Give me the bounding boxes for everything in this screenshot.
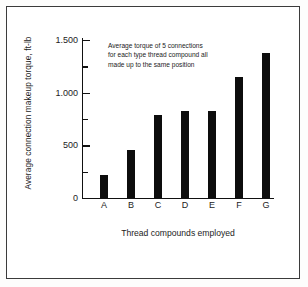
bar-G xyxy=(262,53,270,198)
x-tick-label-A: A xyxy=(101,200,107,210)
bar-A xyxy=(100,175,108,198)
bar-C xyxy=(154,115,162,198)
chart-figure: Average connection makeup torque, ft-lb … xyxy=(0,0,308,287)
bar-B xyxy=(127,150,135,198)
annotation-line-1: Average torque of 5 connections xyxy=(108,41,248,50)
x-tick-label-D: D xyxy=(182,200,189,210)
annotation-line-2: for each type thread compound all xyxy=(108,50,248,59)
y-tick-label-1000: 1.000 xyxy=(55,88,78,98)
y-tick-label-1500: 1.500 xyxy=(55,35,78,45)
x-tick-label-G: G xyxy=(262,200,269,210)
x-axis-title: Thread compounds employed xyxy=(82,228,274,238)
bar-D xyxy=(181,111,189,198)
annotation-line-3: made up to the same position xyxy=(108,60,248,69)
x-tick-label-B: B xyxy=(128,200,134,210)
bar-E xyxy=(208,111,216,198)
y-axis-title: Average connection makeup torque, ft-lb xyxy=(23,23,33,203)
bar-F xyxy=(235,77,243,198)
x-tick-label-E: E xyxy=(209,200,215,210)
x-tick-label-F: F xyxy=(236,200,242,210)
x-tick-label-C: C xyxy=(155,200,162,210)
y-tick-label-500: 500 xyxy=(63,140,78,150)
y-tick-label-0: 0 xyxy=(73,193,78,203)
chart-annotation: Average torque of 5 connections for each… xyxy=(108,41,248,69)
